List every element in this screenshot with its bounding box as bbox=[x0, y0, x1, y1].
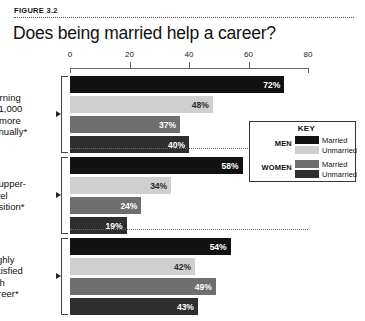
legend-group-label: WOMEN bbox=[252, 163, 292, 172]
category-label-line: Highly bbox=[0, 254, 54, 266]
category-label-line: Earning bbox=[0, 92, 54, 104]
bar: 40% bbox=[70, 136, 189, 153]
bar: 19% bbox=[70, 217, 127, 234]
bar-value-label: 72% bbox=[263, 80, 280, 90]
bar-value-label: 58% bbox=[222, 161, 239, 171]
x-axis-tick bbox=[189, 62, 190, 69]
bar-value-label: 43% bbox=[177, 302, 194, 312]
bar-value-label: 48% bbox=[192, 100, 209, 110]
category-label-line: position* bbox=[0, 201, 54, 213]
category-bracket bbox=[61, 238, 68, 315]
x-axis-tick bbox=[249, 62, 250, 69]
category-bracket-pointer-icon bbox=[56, 273, 61, 279]
category-label-line: or more bbox=[0, 115, 54, 127]
bar: 49% bbox=[70, 278, 216, 295]
group-separator bbox=[70, 229, 308, 230]
category-label-line: satisfied bbox=[0, 265, 54, 277]
legend-entry-label: Married bbox=[322, 136, 347, 145]
bar-value-label: 49% bbox=[195, 282, 212, 292]
bar-value-label: 37% bbox=[159, 120, 176, 130]
legend-swatch bbox=[295, 136, 319, 144]
bar: 34% bbox=[70, 177, 171, 194]
bar: 42% bbox=[70, 258, 195, 275]
bar: 24% bbox=[70, 197, 141, 214]
legend-entry-label: Unmarried bbox=[322, 146, 357, 155]
bar: 54% bbox=[70, 238, 231, 255]
x-axis-tick bbox=[130, 62, 131, 69]
x-axis-tick-label: 20 bbox=[125, 50, 134, 59]
category-label-line: $71,000 bbox=[0, 103, 54, 115]
x-axis-tick bbox=[70, 68, 71, 73]
category-bracket bbox=[61, 76, 68, 153]
bar-value-label: 42% bbox=[174, 262, 191, 272]
category-label: Highlysatisfiedwithcareer* bbox=[0, 254, 54, 300]
x-axis-tick-label: 0 bbox=[68, 50, 72, 59]
legend-swatch bbox=[295, 146, 319, 154]
bar: 37% bbox=[70, 116, 180, 133]
bar: 72% bbox=[70, 76, 284, 93]
bar: 58% bbox=[70, 157, 243, 174]
category-label-line: level bbox=[0, 190, 54, 202]
category-label: Earning$71,000or moreannually* bbox=[0, 92, 54, 138]
bar-value-label: 34% bbox=[150, 181, 167, 191]
category-label-line: career* bbox=[0, 288, 54, 300]
legend-swatch bbox=[295, 160, 319, 168]
legend-entry-label: Unmarried bbox=[322, 170, 357, 179]
category-label-line: annually* bbox=[0, 126, 54, 138]
category-label-line: In upper- bbox=[0, 178, 54, 190]
x-axis-tick bbox=[308, 68, 309, 73]
figure-container: FIGURE 3.2 Does being married help a car… bbox=[0, 0, 365, 321]
category-bracket-pointer-icon bbox=[56, 192, 61, 198]
legend-swatch bbox=[295, 170, 319, 178]
chart-legend: KEY MENMarriedUnmarriedWOMENMarriedUnmar… bbox=[249, 121, 356, 182]
bar-value-label: 24% bbox=[120, 201, 137, 211]
legend-entry-label: Married bbox=[322, 160, 347, 169]
bar-group: Highlysatisfiedwithcareer*54%42%49%43% bbox=[0, 238, 365, 315]
x-axis-tick-label: 40 bbox=[185, 50, 194, 59]
x-axis-tick-label: 80 bbox=[304, 50, 313, 59]
category-bracket bbox=[61, 157, 68, 234]
bar: 43% bbox=[70, 298, 198, 315]
bar: 48% bbox=[70, 96, 213, 113]
category-bracket-pointer-icon bbox=[56, 111, 61, 117]
category-label: In upper-levelposition* bbox=[0, 178, 54, 213]
legend-title: KEY bbox=[250, 124, 355, 133]
x-axis-tick-label: 60 bbox=[244, 50, 253, 59]
legend-group-label: MEN bbox=[252, 139, 292, 148]
bar-value-label: 54% bbox=[210, 242, 227, 252]
category-label-line: with bbox=[0, 277, 54, 289]
